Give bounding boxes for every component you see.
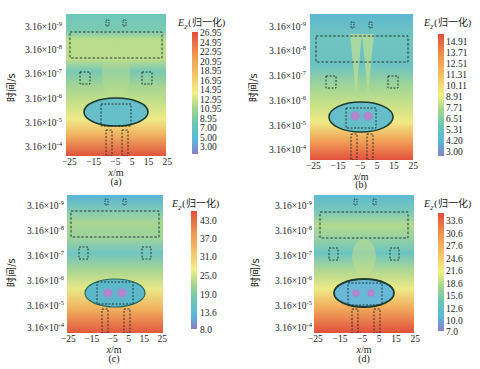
contour-plot [310,14,413,160]
colorbar [438,213,444,331]
contour-plot [67,195,163,333]
y-tick: 3.16×10-8 [258,224,312,236]
y-tick: 3.16×10-4 [252,143,306,155]
colorbar-title: Ez(归一化) [424,14,472,31]
y-tick: 3.16×10-6 [8,92,62,104]
y-tick: 3.16×10-8 [252,44,306,56]
y-tick: 3.16×10-9 [8,20,62,32]
panel-caption: (c) [99,353,129,364]
y-tick: 3.16×10-4 [8,140,62,152]
colorbar [191,211,197,329]
y-tick: 3.16×10-9 [258,199,312,211]
y-tick: 3.16×10-5 [252,119,306,131]
y-tick: 3.16×10-4 [10,321,64,333]
colorbar [192,32,198,154]
colorbar-title: Ez(归一化) [172,195,220,212]
panel-b: 时间/s 3.16×10-9 3.16×10-8 3.16×10-7 3.16×… [240,0,480,184]
y-tick: 3.16×10-5 [10,299,64,311]
y-tick: 3.16×10-5 [258,299,312,311]
y-tick: 3.16×10-9 [252,20,306,32]
contour-plot [66,14,166,156]
panel-caption: (d) [349,353,379,364]
y-tick: 3.16×10-4 [258,321,312,333]
y-tick: 3.16×10-8 [10,224,64,236]
y-tick: 3.16×10-5 [8,116,62,128]
y-tick: 3.16×10-8 [8,43,62,55]
y-tick: 3.16×10-7 [252,69,306,81]
x-axis-ticks: −25−15−551525 [62,157,172,167]
contour-plot [314,195,414,333]
y-tick: 3.16×10-6 [10,274,64,286]
colorbar [438,34,444,156]
panel-c: 时间/s 3.16×10-9 3.16×10-8 3.16×10-7 3.16×… [0,185,240,369]
panel-d: 时间/s 3.16×10-9 3.16×10-8 3.16×10-7 3.16×… [240,185,480,369]
y-tick: 3.16×10-7 [8,67,62,79]
panel-a: 时间/s 3.16×10-9 3.16×10-8 3.16×10-7 3.16×… [0,0,240,184]
y-tick: 3.16×10-6 [252,94,306,106]
y-tick: 3.16×10-7 [10,249,64,261]
colorbar-title: Ez(归一化) [424,195,472,212]
y-tick: 3.16×10-7 [258,249,312,261]
x-axis-ticks: −25−15−551525 [308,334,420,344]
y-tick: 3.16×10-6 [258,274,312,286]
x-axis-ticks: −25−15−551525 [306,161,418,171]
y-tick: 3.16×10-9 [10,199,64,211]
x-axis-ticks: −25−15−551525 [61,334,167,344]
